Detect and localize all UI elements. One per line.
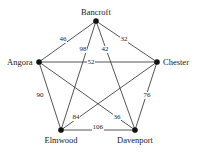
edge-weight-elmwood-davenport: 106 <box>92 124 104 131</box>
vertex-label-chester: Chester <box>163 58 189 67</box>
graph-canvas <box>0 0 197 155</box>
edge-weight-chester-davenport: 76 <box>143 92 151 99</box>
edge-weight-bancroft-davenport: 42 <box>101 46 109 53</box>
vertex-label-davenport: Davenport <box>117 136 153 145</box>
graph-vertex-dot <box>58 127 63 132</box>
vertex-label-elmwood: Elmwood <box>45 136 78 145</box>
graph-vertex-dot <box>93 18 98 23</box>
edges-layer <box>39 21 157 130</box>
graph-vertex-dot <box>154 59 159 64</box>
edge-weight-angora-elmwood: 90 <box>36 92 44 99</box>
edge-weight-bancroft-elmwood: 98 <box>79 46 87 53</box>
vertex-label-angora: Angora <box>7 58 33 67</box>
vertices-layer <box>36 18 159 132</box>
edge-weight-bancroft-angora: 46 <box>59 36 67 43</box>
graph-edge <box>39 21 96 62</box>
edge-weight-bancroft-chester: 32 <box>120 36 128 43</box>
edge-weight-angora-davenport: 84 <box>72 114 80 121</box>
graph-vertex-dot <box>132 127 137 132</box>
edge-weight-chester-elmwood: 36 <box>113 114 121 121</box>
graph-vertex-dot <box>36 59 41 64</box>
graph-diagram: BancroftAngoraChesterElmwoodDavenport 46… <box>0 0 197 155</box>
vertex-label-bancroft: Bancroft <box>81 8 111 17</box>
edge-weight-angora-chester: 52 <box>87 59 95 66</box>
